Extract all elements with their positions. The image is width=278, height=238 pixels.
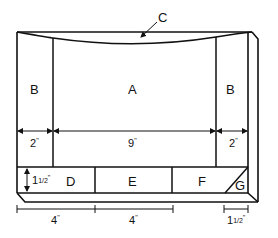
label-d: D — [66, 174, 75, 189]
dim-bottom-right: 11/2" — [227, 214, 246, 226]
panel-dividers — [17, 37, 248, 193]
dim-bottom-left-2: 4" — [129, 214, 138, 226]
label-c: C — [158, 10, 167, 25]
folder-diagram: B A B C D E F G 2" 9" 2" 11/2" 4" 4" 11/… — [0, 0, 278, 238]
label-a: A — [128, 82, 137, 97]
dim-pocket-height: 11/2" — [32, 174, 51, 186]
bottom-dimension-lines — [17, 205, 248, 213]
label-b-left: B — [30, 82, 39, 97]
label-e: E — [128, 174, 137, 189]
dim-bottom-left-1: 4" — [51, 214, 60, 226]
diagram-canvas: B A B C D E F G 2" 9" 2" 11/2" 4" 4" 11/… — [0, 0, 278, 238]
label-g: G — [235, 178, 245, 193]
dim-a-width: 9" — [128, 137, 137, 149]
dim-b-right-width: 2" — [229, 137, 238, 149]
flap-c-pointer — [141, 22, 157, 37]
dim-b-left-width: 2" — [30, 137, 39, 149]
label-f: F — [198, 174, 206, 189]
label-b-right: B — [226, 82, 235, 97]
